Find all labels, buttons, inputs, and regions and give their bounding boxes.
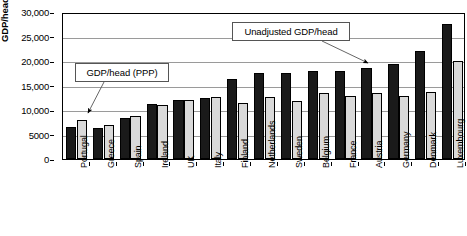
bar-ppp <box>184 100 194 159</box>
x-axis-label-luxembourg: Luxembourg <box>455 119 465 168</box>
x-axis-label-italy: Italy <box>213 152 223 168</box>
x-axis-label-spain: Spain <box>133 145 143 168</box>
bar-unadjusted <box>335 71 345 159</box>
bar-unadjusted <box>93 128 103 159</box>
gdp-per-head-bar-chart: GDP/head (£s) 30,00025,00020,00015,00010… <box>0 0 467 236</box>
x-axis-label-finland: Finland <box>240 139 250 168</box>
bar-ppp <box>211 97 221 159</box>
bar-unadjusted <box>173 100 183 159</box>
y-axis-tick-label: 20,000 <box>21 56 49 67</box>
bar-unadjusted <box>442 24 452 159</box>
x-axis-label-denmark: Denmark <box>428 132 438 168</box>
x-axis-label-france: France <box>348 141 358 168</box>
bar-unadjusted <box>415 51 425 159</box>
x-axis-label-germany: Germany <box>401 132 411 168</box>
y-axis-tick-mark <box>50 111 54 112</box>
y-axis-tick-label: 10,000 <box>21 105 49 116</box>
bar-group <box>361 14 382 159</box>
bar-unadjusted <box>227 79 237 159</box>
x-axis-label-netherlands: Netherlands <box>267 121 277 168</box>
x-axis-tick-mark <box>196 162 197 166</box>
y-axis-tick-mark <box>50 37 54 38</box>
y-axis-tick-label: 30,000 <box>21 7 49 18</box>
x-axis-tick-mark <box>411 162 412 166</box>
x-axis-tick-mark <box>438 162 439 166</box>
bar-group <box>93 14 114 159</box>
bar-unadjusted <box>147 104 157 159</box>
x-axis-tick-mark <box>277 162 278 166</box>
bar-group <box>147 14 168 159</box>
x-axis-label-uk: UK <box>186 156 196 168</box>
y-axis-tick-labels: 30,00025,00020,00015,00010,00050000 <box>0 0 58 236</box>
x-axis-label-austria: Austria <box>374 141 384 168</box>
bar-group <box>120 14 141 159</box>
bar-group <box>173 14 194 159</box>
bar-unadjusted <box>308 71 318 159</box>
annotation-unadjusted-label: Unadjusted GDP/head <box>232 22 350 41</box>
bar-unadjusted <box>200 98 210 159</box>
x-axis-label-greece: Greece <box>106 139 116 168</box>
x-axis-label-sweden: Sweden <box>294 136 304 168</box>
bar-unadjusted <box>66 127 76 159</box>
bar-unadjusted <box>361 68 371 159</box>
x-axis-category-labels: PortugalGreeceSpainIrelandUKItalyFinland… <box>62 162 465 236</box>
y-axis-tick-mark <box>50 62 54 63</box>
x-axis-tick-mark <box>384 162 385 166</box>
bar-unadjusted <box>254 73 264 159</box>
bar-group <box>200 14 221 159</box>
y-axis-tick-mark <box>50 135 54 136</box>
x-axis-label-portugal: Portugal <box>79 135 89 168</box>
x-axis-tick-mark <box>223 162 224 166</box>
y-axis-tick-mark <box>50 86 54 87</box>
x-axis-tick-mark <box>465 162 466 166</box>
y-axis-tick-label: 25,000 <box>21 32 49 43</box>
x-axis-tick-mark <box>89 162 90 166</box>
y-axis-tick-label: 0 <box>44 154 49 165</box>
x-axis-label-ireland: Ireland <box>160 141 170 168</box>
annotation-ppp-label: GDP/head (PPP) <box>75 63 169 82</box>
x-axis-label-belgium: Belgium <box>321 136 331 168</box>
y-axis-tick-mark <box>50 13 54 14</box>
bar-unadjusted <box>120 118 130 159</box>
y-axis-tick-label: 5000 <box>29 130 49 141</box>
y-axis-tick-label: 15,000 <box>21 81 49 92</box>
x-axis-tick-mark <box>250 162 251 166</box>
bar-unadjusted <box>281 73 291 159</box>
bar-unadjusted <box>388 64 398 159</box>
y-axis-tick-mark <box>50 160 54 161</box>
